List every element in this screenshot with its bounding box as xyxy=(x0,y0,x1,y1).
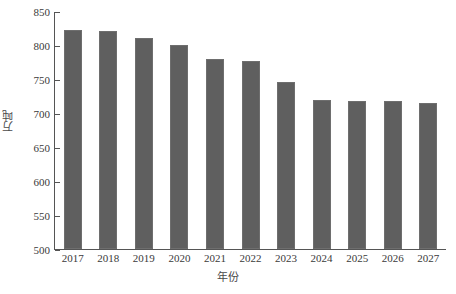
x-axis-tick-label: 2026 xyxy=(375,252,411,264)
y-axis-tick-label: 600 xyxy=(34,176,51,188)
x-axis-tick-label: 2027 xyxy=(410,252,446,264)
bar[interactable] xyxy=(277,82,295,249)
plot-area: 850800750700650600550500 xyxy=(54,12,446,250)
bar-slot xyxy=(162,12,198,249)
bar-slot xyxy=(410,12,446,249)
x-axis-tick-label: 2022 xyxy=(233,252,269,264)
bars-layer xyxy=(55,12,446,249)
bar-slot xyxy=(268,12,304,249)
y-axis-tick-label: 700 xyxy=(34,108,51,120)
x-axis-title: 年份 xyxy=(0,268,456,284)
y-axis-tick-label: 850 xyxy=(34,6,51,18)
x-axis-line xyxy=(54,249,446,250)
bar-slot xyxy=(304,12,340,249)
bar-slot xyxy=(55,12,91,249)
x-axis-tick-label: 2025 xyxy=(339,252,375,264)
bar-chart: 万吨 850800750700650600550500 201720182019… xyxy=(0,0,456,294)
bar[interactable] xyxy=(313,100,331,249)
bar-slot xyxy=(91,12,127,249)
y-axis-tick-label: 550 xyxy=(34,210,51,222)
x-axis-tick-label: 2017 xyxy=(55,252,91,264)
y-axis-tick-label: 800 xyxy=(34,40,51,52)
bar-slot xyxy=(126,12,162,249)
bar-slot xyxy=(197,12,233,249)
x-axis-tick-label: 2018 xyxy=(91,252,127,264)
bar[interactable] xyxy=(206,59,224,249)
bar-slot xyxy=(233,12,269,249)
bar[interactable] xyxy=(242,61,260,249)
bar[interactable] xyxy=(135,38,153,249)
bar-slot xyxy=(339,12,375,249)
y-axis-title: 万吨 xyxy=(2,96,18,146)
bar[interactable] xyxy=(419,103,437,249)
x-axis-tick-label: 2020 xyxy=(162,252,198,264)
x-axis-tick-label: 2024 xyxy=(304,252,340,264)
y-axis-tick-label: 500 xyxy=(34,244,51,256)
x-axis-tick-label: 2019 xyxy=(126,252,162,264)
y-axis-tick-label: 750 xyxy=(34,74,51,86)
bar-slot xyxy=(375,12,411,249)
bar[interactable] xyxy=(170,45,188,249)
y-axis-tick-label: 650 xyxy=(34,142,51,154)
bar[interactable] xyxy=(64,30,82,249)
x-axis-tick-label: 2021 xyxy=(197,252,233,264)
x-axis-tick-labels: 2017201820192020202120222023202420252026… xyxy=(55,252,446,264)
y-axis-tick-mark xyxy=(55,250,60,251)
y-axis-tick: 500 xyxy=(54,250,60,251)
bar[interactable] xyxy=(99,31,117,249)
bar[interactable] xyxy=(384,101,402,249)
x-axis-tick-label: 2023 xyxy=(268,252,304,264)
bar[interactable] xyxy=(348,101,366,249)
